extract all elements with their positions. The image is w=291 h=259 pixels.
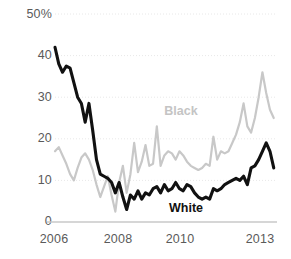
plot-area: [0, 0, 291, 259]
chart-container: 50% 40 30 20 10 0 Black White 2006 2008 …: [0, 0, 291, 259]
series-line-white: [55, 47, 274, 209]
series-label-black: Black: [164, 105, 197, 118]
x-axis-tick-2013: 2013: [222, 233, 291, 246]
series-line-black: [55, 72, 274, 211]
series-label-white: White: [169, 202, 203, 215]
x-axis-tick-2010: 2010: [142, 233, 218, 246]
